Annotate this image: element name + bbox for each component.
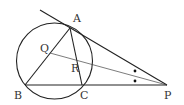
label-c: C xyxy=(80,89,88,102)
bisector-qp xyxy=(50,53,167,85)
geometry-diagram: A B C P Q R xyxy=(0,0,184,105)
label-p: P xyxy=(164,89,172,102)
label-a: A xyxy=(72,12,82,25)
tangent-line-ap xyxy=(40,10,167,85)
label-q: Q xyxy=(40,42,49,55)
label-r: R xyxy=(71,62,80,75)
label-b: B xyxy=(14,89,22,102)
segment-ac xyxy=(70,28,82,85)
angle-mark-dot xyxy=(134,80,137,83)
angle-mark-dot xyxy=(134,70,137,73)
